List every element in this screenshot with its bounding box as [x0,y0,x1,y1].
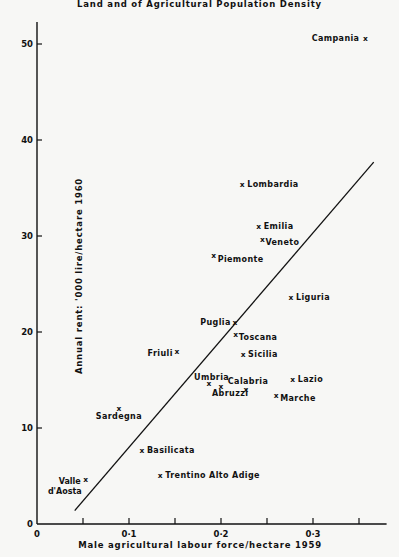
point-label: Veneto [265,238,299,247]
point-label: Puglia [200,318,231,327]
y-tick-label: 0 [27,519,33,529]
x-axis-label: Male agricultural labour force/hectare 1… [30,540,370,550]
x-tick-label: 0·2 [213,529,228,539]
plot-area: 0102030405000·10·20·3xCampaniaxLombardia… [0,0,399,557]
data-point-x-marker: x [174,347,179,356]
data-point-x-marker: x [232,318,237,327]
data-point-x-marker: x [211,251,216,260]
data-point-x-marker: x [83,475,88,484]
chart-title: Land and of Agricultural Population Dens… [0,0,399,9]
y-tick-label: 20 [21,327,33,337]
y-tick-label: 10 [21,423,33,433]
data-point-x-marker: x [290,375,295,384]
point-label: Marche [280,394,316,403]
point-label: d'Aosta [48,487,82,496]
y-axis-label: Annual rent: '000 lire/hectare 1960 [74,126,84,426]
data-point-x-marker: x [158,471,163,480]
point-label: Basilicata [147,446,195,455]
data-point-x-marker: x [233,330,238,339]
data-point-x-marker: x [274,391,279,400]
x-tick-label: 0·1 [121,529,136,539]
point-label: Emilia [264,222,294,231]
point-label: Sicilia [248,350,278,359]
scatter-chart: Land and of Agricultural Population Dens… [0,0,399,557]
data-point-x-marker: x [288,293,293,302]
point-label: Piemonte [218,255,264,264]
point-label: Umbria [194,373,229,382]
y-tick-label: 30 [21,231,33,241]
data-point-x-marker: x [363,34,368,43]
x-tick-label: 0·3 [305,529,320,539]
y-tick-label: 50 [21,39,33,49]
point-label: Calabria [228,377,268,386]
data-point-x-marker: x [241,350,246,359]
point-label: Campania [312,34,360,43]
point-label: Toscana [239,333,278,342]
point-label: Sardegna [96,412,142,421]
data-point-x-marker: x [260,235,265,244]
regression-line [75,162,374,510]
point-label: Trentino Alto Adige [165,471,260,480]
data-point-x-marker: x [139,446,144,455]
data-point-x-marker: x [243,385,248,394]
data-point-x-marker: x [240,180,245,189]
x-tick-label: 0 [34,529,40,539]
data-point-x-marker: x [256,222,261,231]
y-tick-label: 40 [21,135,33,145]
point-label: Friuli [148,349,173,358]
point-label: Lazio [298,375,323,384]
point-label: Liguria [296,293,330,302]
point-label: Valle [59,477,82,486]
point-label: Lombardia [247,180,298,189]
